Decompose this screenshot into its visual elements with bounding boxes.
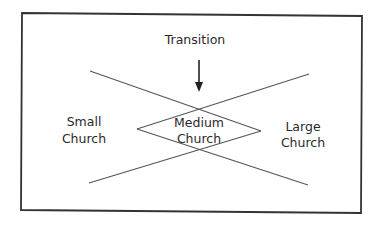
svg-text:Church: Church	[281, 135, 325, 150]
svg-text:Church: Church	[62, 131, 106, 146]
church-transition-diagram: Transition Small Church Medium Church La…	[0, 0, 379, 226]
transition-label: Transition	[164, 32, 225, 47]
svg-text:Medium: Medium	[174, 115, 224, 130]
medium-church-label: Medium Church	[174, 115, 224, 146]
svg-text:Church: Church	[177, 131, 221, 146]
svg-text:Small: Small	[67, 114, 102, 129]
large-church-label: Large Church	[281, 119, 325, 150]
svg-text:Large: Large	[285, 119, 320, 134]
